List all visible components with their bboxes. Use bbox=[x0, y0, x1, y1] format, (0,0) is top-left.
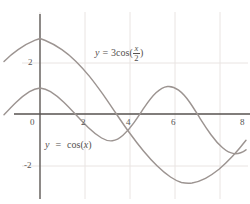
label-3cos-denominator: 2 bbox=[133, 54, 139, 63]
y-tick-label-neg2: -2 bbox=[24, 161, 32, 170]
x-tick-label-8: 8 bbox=[240, 118, 245, 127]
coordinate-plot-figure: 2 -2 0 2 4 6 8 y=3cos(x2) y=cos(x) bbox=[0, 0, 250, 204]
curve-label-3cos: y=3cos(x2) bbox=[95, 44, 143, 63]
plot-canvas bbox=[0, 0, 250, 204]
label-3cos-numerator: x bbox=[133, 44, 139, 53]
label-cos-rhs: cos( bbox=[67, 139, 84, 150]
label-cos-close-paren: ) bbox=[88, 139, 91, 150]
label-cos-lhs: y bbox=[45, 139, 49, 150]
y-tick-label-2: 2 bbox=[28, 58, 33, 67]
x-tick-label-6: 6 bbox=[171, 118, 176, 127]
label-3cos-fraction: x2 bbox=[133, 44, 139, 63]
curve-label-cos: y=cos(x) bbox=[45, 140, 92, 150]
label-3cos-lhs: y bbox=[95, 47, 99, 58]
label-3cos-equals: = bbox=[102, 47, 108, 58]
label-cos-equals: = bbox=[55, 139, 61, 150]
label-3cos-coefficient: 3cos( bbox=[111, 47, 133, 58]
x-tick-label-2: 2 bbox=[81, 118, 86, 127]
x-tick-label-4: 4 bbox=[126, 118, 131, 127]
origin-tick-label: 0 bbox=[30, 118, 35, 127]
label-3cos-close-paren: ) bbox=[140, 47, 143, 58]
